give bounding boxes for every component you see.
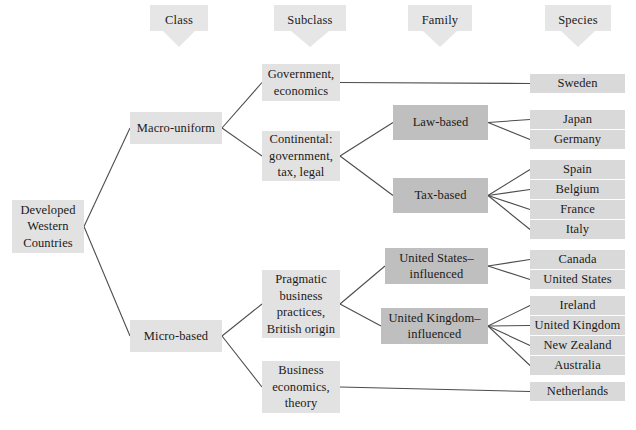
node-belgium-label: Belgium [553,181,603,198]
node-ireland[interactable]: Ireland [530,296,625,315]
connector-root-to-micro-based [84,227,130,337]
node-law-based-label: Law-based [410,114,472,131]
node-germany-label: Germany [551,131,604,148]
node-pragmatic-business-label: Pragmaticbusinesspractices,British origi… [264,271,338,337]
connector-macro-uniform-to-continental [222,128,262,156]
node-business-economics-theory[interactable]: Businesseconomics,theory [262,361,340,413]
connector-uk-influenced-to-ireland [488,306,530,327]
connector-uk-influenced-to-australia [488,326,530,366]
node-government-economics[interactable]: Government,economics [262,64,340,101]
node-canada-label: Canada [555,251,599,268]
node-macro-uniform[interactable]: Macro-uniform [130,112,222,144]
node-italy[interactable]: Italy [530,220,625,239]
node-italy-label: Italy [563,221,592,238]
column-header-class: Class [150,5,208,47]
column-header-class-label: Class [150,13,208,28]
connector-tax-based-to-belgium [488,190,530,196]
connector-tax-based-to-france [488,196,530,210]
node-united-states[interactable]: United States [530,270,625,289]
node-france[interactable]: France [530,200,625,219]
node-united-kingdom-label: United Kingdom [532,317,624,334]
column-header-family-label: Family [408,13,472,28]
column-header-family: Family [408,5,472,47]
connector-government-economics-to-sweden [340,83,530,84]
node-macro-uniform-label: Macro-uniform [134,120,218,137]
node-ireland-label: Ireland [556,297,598,314]
connector-uk-influenced-to-new-zealand [488,326,530,346]
node-new-zealand-label: New Zealand [540,337,614,354]
node-japan[interactable]: Japan [530,110,625,129]
node-tax-based[interactable]: Tax-based [393,178,488,213]
column-header-species: Species [545,5,611,47]
node-sweden[interactable]: Sweden [530,74,625,93]
connector-uk-influenced-to-united-kingdom [488,326,530,327]
node-root-label: DevelopedWesternCountries [17,202,78,252]
node-japan-label: Japan [560,111,595,128]
node-united-kingdom[interactable]: United Kingdom [530,316,625,335]
node-continental[interactable]: Continental:government,tax, legal [262,131,340,181]
connector-business-economics-theory-to-netherlands [340,387,530,392]
connector-law-based-to-germany [488,123,530,140]
connector-pragmatic-business-to-uk-influenced [340,304,381,326]
node-law-based[interactable]: Law-based [393,105,488,140]
connector-continental-to-tax-based [340,156,393,196]
classification-diagram: Class Subclass Family Species DevelopedW… [0,0,636,430]
node-us-influenced-label: United States–influenced [396,250,477,283]
connector-pragmatic-business-to-us-influenced [340,266,385,304]
connector-root-to-macro-uniform [84,128,130,227]
node-sweden-label: Sweden [554,75,600,92]
column-header-subclass: Subclass [274,5,346,47]
connector-tax-based-to-spain [488,170,530,196]
node-canada[interactable]: Canada [530,250,625,269]
node-government-economics-label: Government,economics [265,66,338,99]
connector-continental-to-law-based [340,123,393,157]
node-australia[interactable]: Australia [530,356,625,375]
node-germany[interactable]: Germany [530,130,625,149]
connector-law-based-to-japan [488,120,530,123]
node-micro-based-label: Micro-based [141,328,211,345]
connector-us-influenced-to-united-states [488,266,530,280]
node-netherlands[interactable]: Netherlands [530,382,625,401]
node-uk-influenced[interactable]: United Kingdom–influenced [381,308,488,344]
connector-tax-based-to-italy [488,196,530,230]
node-belgium[interactable]: Belgium [530,180,625,199]
node-netherlands-label: Netherlands [544,383,612,400]
column-header-subclass-label: Subclass [274,13,346,28]
node-france-label: France [557,201,598,218]
node-root[interactable]: DevelopedWesternCountries [12,200,84,253]
node-new-zealand[interactable]: New Zealand [530,336,625,355]
connector-macro-uniform-to-government-economics [222,83,262,129]
node-united-states-label: United States [540,271,614,288]
node-pragmatic-business[interactable]: Pragmaticbusinesspractices,British origi… [262,270,340,338]
node-us-influenced[interactable]: United States–influenced [385,248,488,284]
node-tax-based-label: Tax-based [411,187,469,204]
connector-micro-based-to-business-economics-theory [222,336,262,387]
connector-us-influenced-to-canada [488,260,530,267]
node-continental-label: Continental:government,tax, legal [266,131,336,181]
node-australia-label: Australia [551,357,604,374]
node-uk-influenced-label: United Kingdom–influenced [385,310,483,343]
connector-micro-based-to-pragmatic-business [222,304,262,336]
column-header-species-label: Species [545,13,611,28]
node-spain[interactable]: Spain [530,160,625,179]
node-micro-based[interactable]: Micro-based [130,320,222,352]
node-spain-label: Spain [560,161,595,178]
node-business-economics-theory-label: Businesseconomics,theory [269,362,333,412]
